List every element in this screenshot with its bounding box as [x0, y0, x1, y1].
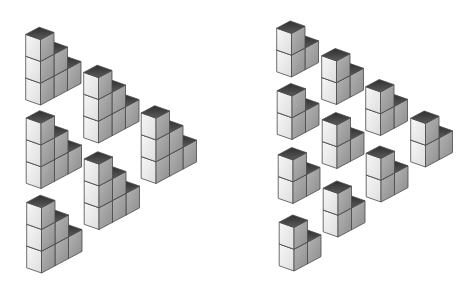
cube [84, 65, 112, 99]
cube [277, 21, 305, 55]
cube [366, 146, 394, 180]
cube [84, 152, 112, 186]
cube [141, 106, 169, 140]
cube [366, 80, 394, 114]
cube [322, 49, 350, 83]
cube [26, 27, 54, 61]
cube [322, 113, 350, 147]
cube [277, 84, 305, 118]
cube [26, 111, 54, 145]
cube [278, 148, 306, 182]
cube [27, 195, 55, 229]
cube [323, 181, 351, 215]
cube [279, 215, 307, 249]
cube [411, 111, 439, 145]
isometric-cube-diagram [0, 0, 474, 286]
